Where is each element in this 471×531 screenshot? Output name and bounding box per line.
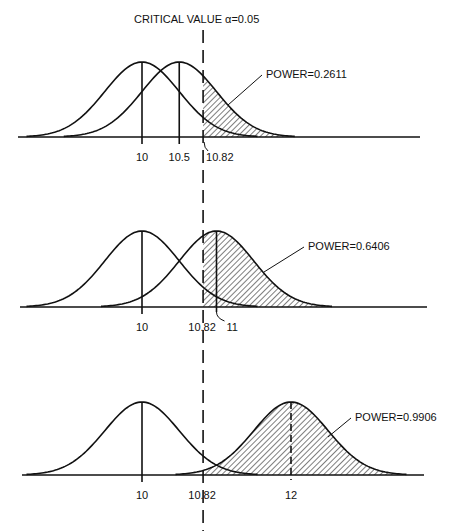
tick-label: 12 — [285, 489, 297, 501]
tick-label: 10 — [136, 151, 148, 163]
tick-label: 10.82 — [188, 489, 216, 501]
tick-label: 10.5 — [169, 151, 190, 163]
panels: 1010.510.82POWER=0.26111010.8211POWER=0.… — [18, 62, 437, 501]
power-label: POWER=0.9906 — [355, 411, 437, 423]
alt-mean-leader — [217, 312, 225, 321]
power-leader-line — [264, 247, 304, 272]
power-leader-line — [228, 75, 262, 105]
tick-label: 10 — [136, 489, 148, 501]
power-leader-line — [328, 418, 351, 437]
tick-label: 11 — [227, 321, 238, 333]
panel-2: 1010.8211POWER=0.6406 — [20, 231, 427, 333]
power-label: POWER=0.6406 — [308, 240, 390, 252]
panel-1: 1010.510.82POWER=0.2611 — [18, 62, 420, 163]
chart-title: CRITICAL VALUE α=0.05 — [134, 13, 259, 25]
panel-3: 1010.8212POWER=0.9906 — [22, 402, 437, 501]
tick-label: 10.82 — [188, 321, 216, 333]
tick-label: 10 — [136, 321, 148, 333]
power-chart: CRITICAL VALUE α=0.05 1010.510.82POWER=0… — [0, 0, 471, 531]
critical-value-leader — [204, 142, 208, 151]
tick-label: 10.82 — [206, 151, 234, 163]
power-label: POWER=0.2611 — [266, 68, 347, 80]
